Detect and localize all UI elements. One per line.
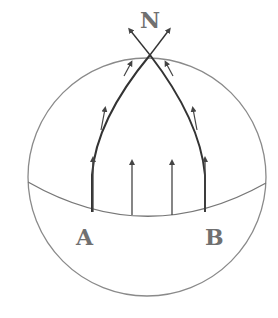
- arrow-b-3: [166, 63, 173, 76]
- meridian-a: [92, 55, 150, 212]
- equator-line: [28, 182, 266, 216]
- arrow-a-north: [150, 30, 169, 55]
- label-north: N: [140, 7, 160, 33]
- sphere-diagram: N A B: [0, 0, 278, 318]
- label-b: B: [205, 224, 224, 250]
- sphere-outline: [28, 58, 266, 296]
- arrow-b-north: [130, 30, 150, 55]
- meridian-b: [150, 55, 205, 212]
- arrow-a-3: [124, 63, 131, 76]
- label-a: A: [75, 224, 94, 250]
